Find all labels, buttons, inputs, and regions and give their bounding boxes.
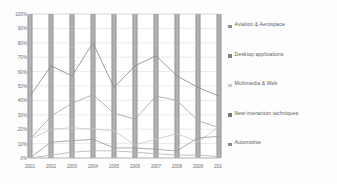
y-axis-tick-label: 20% — [18, 127, 27, 132]
chart-legend: Aviation & AerospaceDesktop applications… — [228, 0, 337, 184]
x-axis-tick-label-2009: 2009 — [193, 164, 204, 169]
legend-item-0[interactable]: Aviation & Aerospace — [228, 22, 337, 52]
legend-swatch-icon — [228, 25, 232, 29]
legend-item-label: Desktop applications — [235, 52, 284, 57]
y-axis-tick-label: 100% — [15, 12, 27, 17]
legend-item-label: Automotive — [235, 140, 262, 145]
y-axis-tick-label: 70% — [18, 55, 27, 60]
y-axis-tick-label: 50% — [18, 84, 27, 89]
legend-swatch-icon — [228, 54, 232, 58]
x-axis-tick-label-2004: 2004 — [88, 164, 99, 169]
x-axis-tick-label-2007: 2007 — [151, 164, 162, 169]
y-axis-tick-label: 60% — [18, 70, 27, 75]
legend-item-2[interactable]: Multimedia & Web — [228, 81, 337, 111]
x-axis-tick-label-2005: 2005 — [109, 164, 120, 169]
x-axis-tick-label-2003: 2003 — [67, 164, 78, 169]
y-axis-tick-label: 0% — [20, 156, 27, 161]
y-axis-tick-label: 90% — [18, 26, 27, 31]
y-axis-tick-label: 30% — [18, 113, 27, 118]
y-axis-tick-label: 40% — [18, 98, 27, 103]
legend-item-label: Aviation & Aerospace — [235, 22, 285, 27]
x-axis-tick-label-2010: 2010 — [214, 164, 222, 169]
y-axis-tick-label: 10% — [18, 142, 27, 147]
legend-item-4[interactable]: Automotive — [228, 140, 337, 170]
legend-swatch-icon — [228, 143, 232, 147]
legend-item-1[interactable]: Desktop applications — [228, 52, 337, 82]
legend-item-3[interactable]: New interaction techniques — [228, 111, 337, 141]
legend-swatch-icon — [228, 113, 232, 117]
y-axis-tick-label: 80% — [18, 41, 27, 46]
x-axis-tick-label-2001: 2001 — [25, 164, 36, 169]
chart-screenshot: 0%10%20%30%40%50%60%70%80%90%100%2001200… — [0, 0, 337, 184]
x-axis-tick-label-2006: 2006 — [130, 164, 141, 169]
legend-item-label: Multimedia & Web — [235, 81, 278, 86]
legend-swatch-icon — [228, 84, 232, 88]
chart-plot-area: 0%10%20%30%40%50%60%70%80%90%100%2001200… — [0, 0, 222, 184]
x-axis-tick-label-2008: 2008 — [172, 164, 183, 169]
chart-svg: 0%10%20%30%40%50%60%70%80%90%100%2001200… — [0, 0, 222, 184]
x-axis-tick-label-2002: 2002 — [46, 164, 57, 169]
legend-item-label: New interaction techniques — [235, 111, 299, 116]
